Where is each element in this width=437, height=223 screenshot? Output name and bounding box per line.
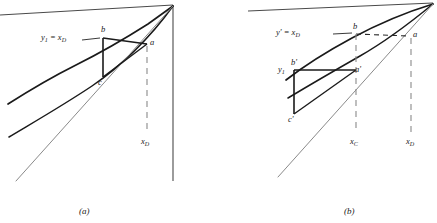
panel-a-point-b-label: b [101, 25, 105, 34]
panel-a-caption: (a) [79, 207, 90, 216]
panel-a-axis-label-xd: xD [141, 137, 149, 147]
panel-b-operating-label-y1: y1 [278, 65, 285, 75]
panel-b-point-bprime-label: b' [291, 58, 297, 67]
panel-a-equilibrium-curve [8, 6, 173, 104]
panel-b-point-cprime-label: c' [288, 115, 294, 124]
panel-a-operating-line [9, 6, 173, 137]
panel-a-eq-var-sub: D [62, 37, 66, 43]
panel-a-point-c-label: c [98, 78, 102, 87]
panel-b-axis-label-xd: xD [406, 137, 414, 147]
panel-b-xc-sub: C [354, 141, 358, 147]
panel-b-caption: (b) [344, 207, 355, 216]
panel-b-point-b-label: b [353, 22, 357, 31]
panel-a-eq-equals: = [48, 32, 58, 42]
panel-a-equilibrium-label: y1 = xD [41, 33, 66, 43]
panel-a [0, 5, 173, 181]
panel-b-equilibrium-label: y' = xD [276, 28, 300, 38]
panel-b-y1-sub: 1 [282, 69, 285, 75]
panel-a-xd-sub: D [145, 141, 149, 147]
panel-a-step-diagonal-c-a [103, 44, 147, 77]
panel-b-xd-sub: D [410, 141, 414, 147]
panel-b-point-aprime-label: a' [355, 65, 361, 74]
panel-a-top-frame-line [0, 5, 173, 15]
panel-b-eq-equals: = [282, 27, 292, 37]
panel-b-label-leader-line [333, 33, 352, 34]
panel-b-top-frame-line [248, 3, 433, 11]
panel-a-point-a-label: a [150, 38, 154, 47]
panel-b-eq-var-sub: D [295, 32, 299, 38]
panel-b-axis-label-xc: xC [350, 137, 358, 147]
panel-b-point-a-label: a [413, 30, 417, 39]
panel-a-diagonal-45-line [16, 6, 173, 181]
panel-a-label-leader-line [82, 38, 100, 40]
panel-b-dashed-horizontal-b-a [356, 34, 409, 36]
